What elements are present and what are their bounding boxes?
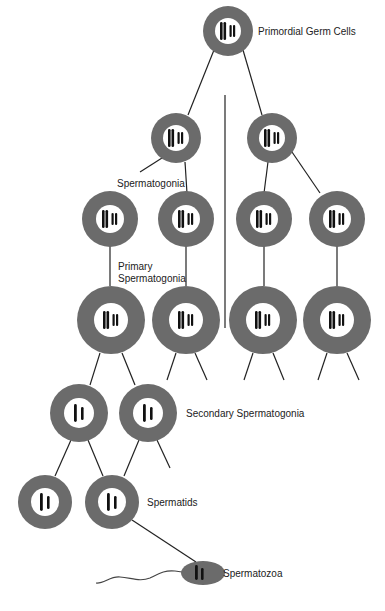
secondary-spermatogonium-cell-b — [119, 384, 177, 442]
primary-spermatogonium-cell-d — [303, 286, 371, 354]
spermatogonium-cell-right — [247, 113, 297, 163]
spermatogonium-cell-left — [151, 113, 201, 163]
label-primary-spermatogonia-line1: Primary — [118, 261, 152, 272]
spermatid-cell-b — [85, 475, 139, 529]
primary-spermatogonium-cell-a — [77, 286, 145, 354]
label-spermatozoa: Spermatozoa — [223, 568, 283, 579]
primary-spermatogonium-cell-c — [229, 286, 297, 354]
spermatogonium-cell-3a — [82, 191, 138, 247]
spermatogonium-cell-3b — [158, 191, 214, 247]
label-primordial-germ-cells: Primordial Germ Cells — [258, 26, 356, 37]
label-spermatids: Spermatids — [147, 497, 198, 508]
spermatozoon — [96, 561, 225, 585]
primordial-germ-cell — [203, 6, 253, 56]
spermatid-cell-a — [18, 475, 72, 529]
label-primary-spermatogonia-line2: Spermatogonia — [118, 273, 186, 284]
secondary-spermatogonium-cell-a — [50, 384, 108, 442]
spermatogonium-cell-3c — [236, 191, 292, 247]
primary-spermatogonium-cell-b — [152, 286, 220, 354]
spermatogenesis-diagram: Primordial Germ Cells Spermatogonia Prim… — [0, 0, 385, 611]
spermatogonium-cell-3d — [309, 191, 365, 247]
label-spermatogonia: Spermatogonia — [117, 178, 185, 189]
label-secondary-spermatogonia: Secondary Spermatogonia — [186, 408, 305, 419]
